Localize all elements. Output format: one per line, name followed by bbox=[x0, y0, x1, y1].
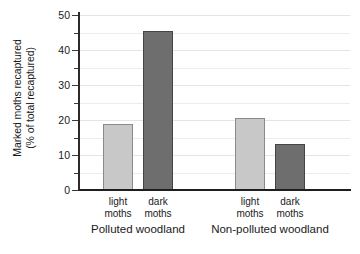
y-axis-title-line2: (% of total recaptured) bbox=[24, 12, 37, 184]
category-label-line2: moths bbox=[260, 208, 320, 220]
gridline bbox=[79, 50, 350, 51]
y-tick-label: 10 bbox=[52, 150, 70, 161]
y-axis-title: Marked moths recaptured (% of total reca… bbox=[11, 12, 37, 184]
bar-light-moths bbox=[103, 124, 133, 191]
y-axis-title-container: Marked moths recaptured (% of total reca… bbox=[0, 0, 46, 200]
gridline bbox=[79, 120, 350, 121]
y-tick-label: 50 bbox=[52, 10, 70, 21]
y-tick-label: 30 bbox=[52, 80, 70, 91]
bar-light-moths bbox=[235, 118, 265, 190]
y-axis-title-line1: Marked moths recaptured bbox=[11, 39, 23, 156]
group-label: Non-polluted woodland bbox=[180, 223, 360, 236]
gridline bbox=[79, 68, 350, 69]
category-label: darkmoths bbox=[128, 196, 188, 220]
y-tick-label: 0 bbox=[52, 185, 70, 196]
y-axis-line bbox=[78, 12, 80, 191]
bar-dark-moths bbox=[143, 31, 173, 190]
gridline bbox=[79, 33, 350, 34]
category-label-line2: moths bbox=[128, 208, 188, 220]
bar-dark-moths bbox=[275, 144, 305, 190]
y-tick-label: 40 bbox=[52, 45, 70, 56]
gridline bbox=[79, 103, 350, 104]
gridline bbox=[79, 85, 350, 86]
category-label: darkmoths bbox=[260, 196, 320, 220]
y-tick-label: 20 bbox=[52, 115, 70, 126]
category-label-line1: dark bbox=[260, 196, 320, 208]
gridline bbox=[79, 15, 350, 16]
bar-chart-figure: Marked moths recaptured (% of total reca… bbox=[0, 0, 360, 254]
category-label-line1: dark bbox=[128, 196, 188, 208]
plot-area bbox=[79, 15, 350, 190]
x-axis-line bbox=[79, 189, 351, 191]
